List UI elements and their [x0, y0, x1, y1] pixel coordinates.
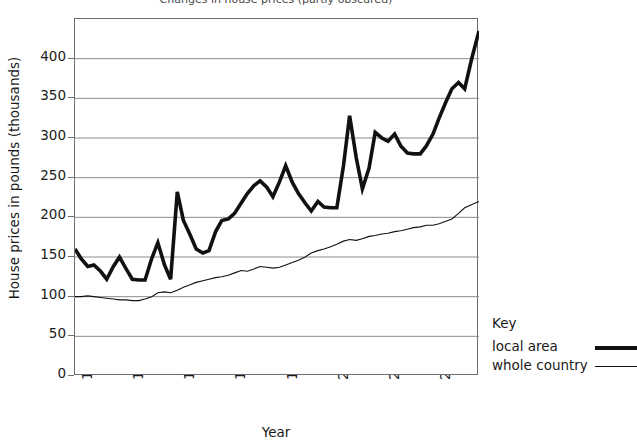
y-tick-label: 250 — [22, 169, 66, 183]
y-tick-label: 50 — [22, 327, 66, 341]
series-line-whole-country — [75, 201, 479, 300]
plot-svg — [75, 19, 479, 376]
legend-swatch-thick — [595, 346, 637, 350]
y-tick-mark — [68, 375, 74, 376]
y-tick-label: 300 — [22, 129, 66, 143]
y-tick-label: 100 — [22, 288, 66, 302]
legend-item-label: whole country — [492, 357, 588, 373]
legend-swatch-thin — [595, 366, 637, 367]
y-tick-label: 400 — [22, 50, 66, 64]
y-tick-label: 0 — [22, 367, 66, 381]
legend-item-label: local area — [492, 338, 558, 354]
series-line-local-area — [75, 31, 479, 280]
legend-rows: local areawhole country — [492, 338, 634, 376]
legend: Key local areawhole country — [492, 315, 634, 376]
legend-item-whole-country: whole country — [492, 357, 634, 376]
y-tick-label: 150 — [22, 248, 66, 262]
y-axis-label: House prices in pounds (thousands) — [6, 0, 22, 358]
legend-item-local-area: local area — [492, 338, 634, 357]
y-tick-label: 350 — [22, 89, 66, 103]
plot-area — [74, 18, 478, 375]
legend-title: Key — [492, 315, 634, 331]
x-axis-label: Year — [74, 424, 478, 440]
chart-title: Changes in house prices (partly obscured… — [74, 0, 478, 6]
y-tick-label: 200 — [22, 208, 66, 222]
